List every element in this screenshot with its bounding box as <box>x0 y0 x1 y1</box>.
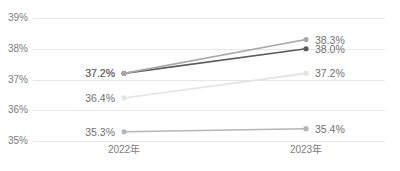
data-label: 38.3% <box>315 34 345 45</box>
data-point-marker[interactable] <box>303 71 308 76</box>
data-point-marker[interactable] <box>303 46 308 51</box>
x-axis-tick-label: 2022年 <box>108 145 140 155</box>
y-axis-tick-label: 38% <box>8 44 28 54</box>
series-line-2 <box>124 73 306 98</box>
y-axis-tick-label: 36% <box>8 105 28 115</box>
chart-legend <box>0 0 400 3</box>
data-label: 37.2% <box>315 68 345 79</box>
plot-area: 39%38%37%36%35% 2022年2023年 37.2%38.0%37.… <box>33 18 385 141</box>
series-line-0 <box>124 49 306 74</box>
y-axis-tick-label: 39% <box>8 13 28 23</box>
data-label: 35.3% <box>85 127 115 138</box>
y-axis-tick-label: 37% <box>8 75 28 85</box>
data-point-marker[interactable] <box>121 71 126 76</box>
line-chart: 39%38%37%36%35% 2022年2023年 37.2%38.0%37.… <box>0 0 400 171</box>
series-line-1 <box>124 40 306 74</box>
data-label: 36.4% <box>85 93 115 104</box>
data-label: 35.4% <box>315 123 345 134</box>
series-line-3 <box>124 129 306 132</box>
data-point-marker[interactable] <box>303 37 308 42</box>
data-point-marker[interactable] <box>303 126 308 131</box>
gridline <box>33 141 385 142</box>
data-point-marker[interactable] <box>121 95 126 100</box>
data-point-marker[interactable] <box>121 129 126 134</box>
x-axis-tick-label: 2023年 <box>290 145 322 155</box>
y-axis-tick-label: 35% <box>8 136 28 146</box>
data-label: 37.2% <box>85 68 115 79</box>
